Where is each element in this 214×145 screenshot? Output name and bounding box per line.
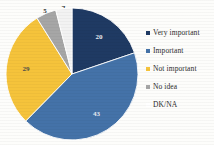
legend-swatch-icon [146,85,150,89]
legend-item-no-idea[interactable]: No idea [146,78,214,96]
legend-item-not-important[interactable]: Not important [146,60,214,78]
legend-item-label: Very important [153,24,200,42]
pie-data-label: 20 [95,33,103,41]
pie-plot-area: 20432954 [4,6,140,142]
chart-legend: Very important Important Not important N… [146,24,214,114]
pie-data-label: 29 [23,65,31,73]
legend-swatch-icon [146,31,150,35]
pie-data-label: 4 [62,6,66,10]
legend-swatch-icon [146,49,150,53]
legend-item-dk-na[interactable]: DK/NA [146,96,214,114]
legend-item-label: Not important [153,60,197,78]
pie-svg: 20432954 [4,6,140,142]
pie-slices-group [6,8,138,140]
legend-swatch-icon [146,67,150,71]
legend-item-important[interactable]: Important [146,42,214,60]
legend-item-very-important[interactable]: Very important [146,24,214,42]
pie-data-label: 5 [43,7,47,15]
legend-swatch-icon [146,103,150,107]
pie-chart-figure: 20432954 Very important Important Not im… [0,0,214,145]
legend-item-label: DK/NA [153,96,177,114]
legend-item-label: No idea [153,78,177,96]
pie-data-label: 43 [93,110,101,118]
legend-item-label: Important [153,42,183,60]
